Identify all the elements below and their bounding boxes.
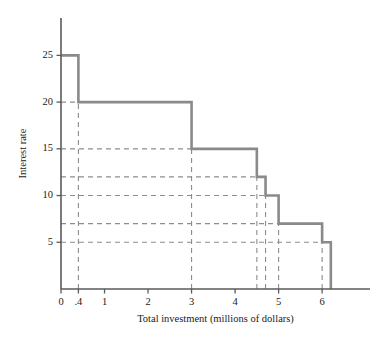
x-tick-label-3: 3 bbox=[189, 296, 194, 307]
y-tick-label-20: 20 bbox=[43, 96, 54, 107]
x-tick-label-2: 2 bbox=[145, 296, 150, 307]
x-tick-label-1: 1 bbox=[102, 296, 107, 307]
step-function-curve bbox=[61, 55, 331, 289]
x-tick-label-5: 5 bbox=[276, 296, 281, 307]
y-tick-label-5: 5 bbox=[48, 236, 53, 247]
x-tick-label-p4: .4 bbox=[74, 296, 83, 307]
x-tick-label-0: 0 bbox=[58, 296, 63, 307]
investment-demand-chart: 5101520250.4123456Total investment (mill… bbox=[0, 0, 390, 339]
x-axis-title: Total investment (millions of dollars) bbox=[137, 313, 294, 325]
y-tick-label-15: 15 bbox=[43, 142, 54, 153]
x-tick-label-4: 4 bbox=[232, 296, 238, 307]
y-tick-label-25: 25 bbox=[43, 49, 54, 60]
chart-canvas: 5101520250.4123456Total investment (mill… bbox=[0, 0, 390, 339]
x-tick-label-6: 6 bbox=[320, 296, 325, 307]
y-tick-label-10: 10 bbox=[43, 189, 54, 200]
y-axis-title: Interest rate bbox=[17, 128, 28, 178]
